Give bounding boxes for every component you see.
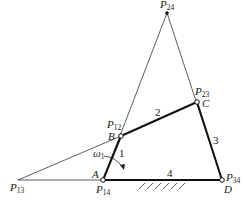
joint-a <box>101 178 106 183</box>
joint-d <box>220 178 225 183</box>
joint-c <box>195 100 200 105</box>
label-omega: ω1 <box>93 147 105 161</box>
ground-hatch <box>139 183 185 189</box>
label-d: D <box>223 183 232 195</box>
label-p14: P14 <box>95 183 110 197</box>
label-c: C <box>202 97 210 109</box>
label-link-3: 3 <box>213 134 219 146</box>
linkage-diagram: P24 P23 C P12 B A P14 P34 D P13 ω1 1 2 3… <box>0 0 246 205</box>
label-b: B <box>108 130 115 142</box>
label-link-2: 2 <box>155 106 161 118</box>
label-link-1: 1 <box>119 147 125 159</box>
label-p24: P24 <box>159 0 174 12</box>
label-link-4: 4 <box>167 167 173 179</box>
label-a: A <box>91 168 99 180</box>
label-p13: P13 <box>9 181 24 195</box>
joint-b <box>119 134 124 139</box>
